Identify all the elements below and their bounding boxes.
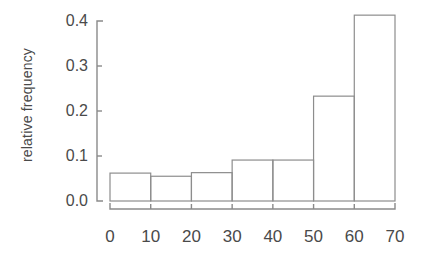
x-tick-label: 50	[294, 228, 334, 245]
x-tick-label: 10	[131, 228, 171, 245]
histogram-figure: relative frequency 0.00.10.20.30.4 01020…	[0, 0, 426, 263]
x-tick-label: 70	[375, 228, 415, 245]
x-tick-label: 30	[212, 228, 252, 245]
x-tick-label-group: 010203040506070	[0, 0, 426, 263]
x-tick-label: 40	[253, 228, 293, 245]
x-tick-label: 60	[334, 228, 374, 245]
x-tick-label: 0	[90, 228, 130, 245]
x-tick-label: 20	[171, 228, 211, 245]
